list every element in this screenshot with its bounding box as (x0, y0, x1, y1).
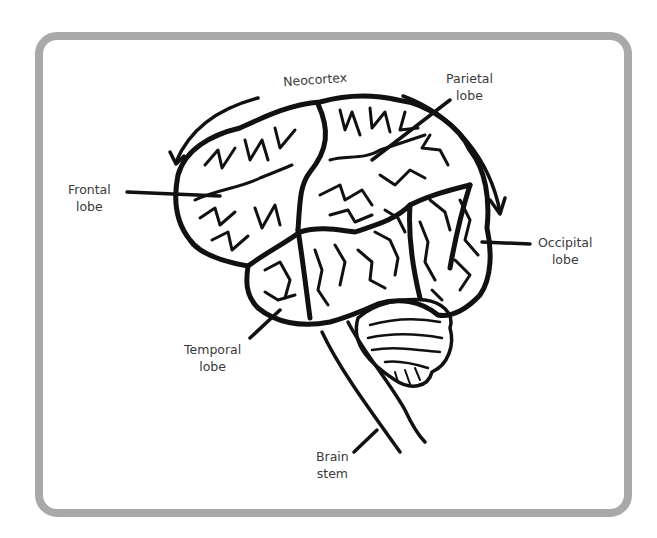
frontal-pointer (127, 192, 220, 196)
occipital-pointer (482, 242, 530, 244)
label-temporal-line1: Temporal (184, 341, 241, 358)
label-brainstem-line1: Brain (316, 448, 349, 465)
label-parietal-line1: Parietal (446, 70, 493, 87)
label-frontal-lobe: Frontal lobe (68, 181, 111, 215)
label-parietal-lobe: Parietal lobe (446, 70, 493, 104)
label-temporal-line2: lobe (184, 358, 241, 375)
brainstem-pointer (354, 430, 377, 452)
gyri-lines (195, 108, 478, 305)
label-occipital-lobe: Occipital lobe (538, 234, 593, 268)
label-parietal-line2: lobe (446, 87, 493, 104)
label-occipital-line2: lobe (538, 251, 593, 268)
label-brain-stem: Brain stem (316, 448, 349, 482)
label-brainstem-line2: stem (316, 465, 349, 482)
label-frontal-line2: lobe (68, 198, 111, 215)
neocortex-arrow-right (403, 96, 505, 214)
label-occipital-line1: Occipital (538, 234, 593, 251)
label-temporal-lobe: Temporal lobe (184, 341, 241, 375)
label-frontal-line1: Frontal (68, 181, 111, 198)
